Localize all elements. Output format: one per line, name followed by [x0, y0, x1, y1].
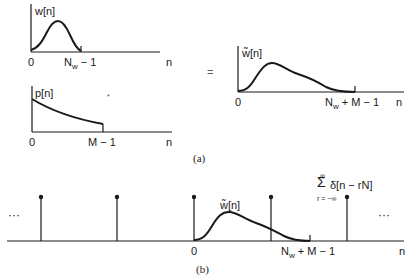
plot-p-tick-end: M − 1: [88, 136, 116, 148]
convolution-operator: *: [107, 91, 110, 103]
ellipsis-right: ···: [378, 209, 390, 221]
plot-p-curve: [32, 99, 103, 124]
plot-wtilde-tick-zero: 0: [235, 96, 241, 108]
plot-p-xlabel: n: [166, 136, 172, 148]
plot-p-ylabel: p[n]: [35, 87, 53, 99]
plot-wtilde-ylabel: w̃[n]: [242, 47, 262, 59]
tick-rest: + M − 1: [339, 96, 379, 108]
caption-a: (a): [193, 152, 205, 164]
plot-p-tick-zero: 0: [29, 136, 35, 148]
tick-sub: w: [72, 62, 78, 71]
tick-rest: − 1: [78, 56, 97, 68]
plot-w-tick-end: Nw − 1: [64, 56, 96, 70]
ellipsis-left: ···: [8, 209, 20, 221]
plot-w-xlabel: n: [166, 56, 172, 68]
panel-b-xlabel: n: [399, 245, 405, 257]
impulse-train: [41, 197, 347, 241]
panel-b-tick-zero: 0: [191, 245, 197, 257]
sum-lower-limit: r = −∞: [317, 193, 336, 205]
tick-sub: w: [289, 251, 295, 260]
sum-term: δ[n − rN]: [330, 179, 373, 191]
diagram-canvas: [0, 0, 413, 278]
tick-main: N: [281, 245, 289, 257]
plot-w-tick-zero: 0: [28, 56, 34, 68]
plot-wtilde-curve: [238, 63, 355, 92]
tick-rest: + M − 1: [295, 245, 335, 257]
plot-w-ylabel: w[n]: [35, 5, 55, 17]
tick-main: N: [325, 96, 333, 108]
panel-b-wtilde-curve: [194, 212, 310, 241]
plot-wtilde-tick-end: Nw + M − 1: [325, 96, 379, 110]
plot-w-curve: [31, 21, 81, 51]
impulse-heads: [39, 195, 349, 199]
panel-b-tick-end: Nw + M − 1: [281, 245, 335, 259]
equals-operator: =: [207, 66, 213, 78]
tick-main: N: [64, 56, 72, 68]
panel-b-curve-label: w̃[n]: [220, 199, 240, 211]
tick-sub: w: [333, 102, 339, 111]
plot-wtilde-xlabel: n: [396, 96, 402, 108]
caption-b: (b): [196, 263, 209, 275]
sum-symbol: Σ: [317, 176, 326, 188]
